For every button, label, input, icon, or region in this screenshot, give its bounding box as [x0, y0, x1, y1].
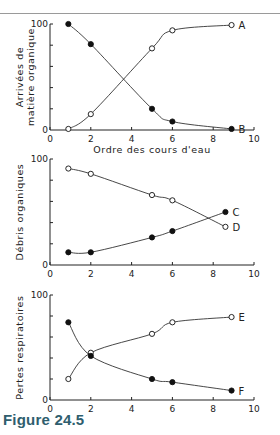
series-label-F: F — [239, 386, 245, 397]
y-axis-label: Pertes respiratoires — [14, 295, 25, 399]
x-tick-label: 4 — [129, 269, 135, 279]
data-point — [66, 250, 71, 255]
series-label-D: D — [232, 222, 240, 233]
data-point — [149, 106, 154, 111]
y-tick-label: 100 — [31, 19, 48, 29]
x-axis-label: Ordre des cours d'eau — [93, 144, 211, 155]
data-point — [223, 209, 228, 214]
x-tick-label: 8 — [210, 269, 216, 279]
x-tick-label: 2 — [88, 404, 94, 414]
data-point — [88, 42, 93, 47]
data-point — [170, 119, 175, 124]
data-point — [229, 314, 234, 319]
data-point — [170, 198, 175, 203]
data-point — [149, 376, 154, 381]
y-tick-label: 100 — [31, 290, 48, 300]
data-point — [229, 388, 234, 393]
data-point — [229, 22, 234, 27]
data-point — [170, 380, 175, 385]
series-line-C — [68, 212, 225, 253]
data-point — [149, 192, 154, 197]
data-point — [223, 224, 228, 229]
data-point — [88, 112, 93, 117]
x-tick-label: 10 — [248, 134, 260, 144]
data-point — [170, 320, 175, 325]
data-point — [66, 21, 71, 26]
x-tick-label: 10 — [248, 269, 260, 279]
chart-panel-2: 01000246810Débris organiquesCD — [14, 154, 260, 279]
x-tick-label: 8 — [210, 134, 216, 144]
data-point — [88, 353, 93, 358]
data-point — [229, 126, 234, 131]
series-label-C: C — [232, 207, 239, 218]
data-point — [88, 250, 93, 255]
x-tick-label: 2 — [88, 134, 94, 144]
y-tick-label: 100 — [31, 154, 48, 164]
x-tick-label: 6 — [170, 404, 176, 414]
x-tick-label: 0 — [47, 269, 53, 279]
x-tick-label: 4 — [129, 404, 135, 414]
data-point — [66, 320, 71, 325]
x-tick-label: 10 — [248, 404, 260, 414]
data-point — [66, 166, 71, 171]
figure-caption: Figure 24.5 — [3, 411, 84, 428]
data-point — [170, 228, 175, 233]
x-tick-label: 8 — [210, 404, 216, 414]
series-label-B: B — [239, 124, 246, 135]
series-line-D — [68, 169, 225, 227]
data-point — [149, 331, 154, 336]
chart-panel-3: 01000246810Pertes respiratoiresEF — [14, 290, 260, 414]
x-tick-label: 6 — [170, 134, 176, 144]
y-axis-label: Débris organiques — [14, 164, 25, 261]
y-axis-label: Arrivées de — [14, 47, 25, 108]
x-tick-label: 0 — [47, 134, 53, 144]
series-label-A: A — [239, 20, 246, 31]
data-point — [66, 376, 71, 381]
data-point — [149, 235, 154, 240]
series-line-E — [68, 317, 231, 379]
data-point — [66, 126, 71, 131]
x-tick-label: 4 — [129, 134, 135, 144]
figure-charts: 01000246810Ordre des cours d'eauArrivées… — [0, 0, 280, 435]
x-tick-label: 2 — [88, 269, 94, 279]
data-point — [170, 28, 175, 33]
data-point — [88, 171, 93, 176]
chart-panel-1: 01000246810Ordre des cours d'eauArrivées… — [14, 19, 260, 155]
data-point — [149, 46, 154, 51]
x-tick-label: 6 — [170, 269, 176, 279]
y-axis-label: matière organique — [25, 28, 36, 126]
series-label-E: E — [239, 312, 245, 323]
